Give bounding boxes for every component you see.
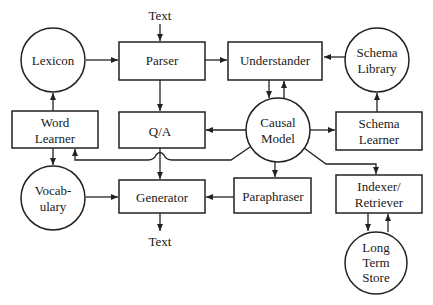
long-term-store-label-line3: Store <box>362 270 390 285</box>
node-causal-model: Causal Model <box>246 98 310 162</box>
long-term-store-label-line1: Long <box>362 240 390 255</box>
lexicon-label: Lexicon <box>32 53 75 68</box>
parser-label: Parser <box>146 53 179 68</box>
node-lexicon: Lexicon <box>21 28 85 92</box>
vocabulary-circle <box>21 166 85 230</box>
node-schema-library: Schema Library <box>345 28 409 92</box>
schema-learner-label-line2: Learner <box>359 132 400 147</box>
causal-model-label-line1: Causal <box>260 115 296 130</box>
node-indexer-retriever: Indexer/ Retriever <box>336 175 422 213</box>
node-schema-learner: Schema Learner <box>336 112 422 150</box>
paraphraser-label: Paraphraser <box>242 189 304 204</box>
vocabulary-label-line1: Vocab- <box>35 183 72 198</box>
long-term-store-label-line2: Term <box>362 255 389 270</box>
causal-model-label-line2: Model <box>261 131 295 146</box>
indexer-retriever-label-line2: Retriever <box>355 195 404 210</box>
schema-library-circle <box>345 28 409 92</box>
output-text-label: Text <box>149 234 172 249</box>
system-architecture-diagram: Text Text Lexicon Parser Understander Sc… <box>0 0 433 305</box>
understander-label: Understander <box>240 53 311 68</box>
node-word-learner: Word Learner <box>12 111 98 148</box>
indexer-retriever-label-line1: Indexer/ <box>357 179 401 194</box>
edge-causal-model-to-indexer <box>304 148 376 174</box>
qa-label: Q/A <box>149 124 172 139</box>
word-learner-label-line2: Learner <box>35 131 76 146</box>
node-parser: Parser <box>119 42 205 80</box>
node-generator: Generator <box>119 180 205 213</box>
node-vocabulary: Vocab- ulary <box>21 166 85 230</box>
edge-causal-model-to-word-learner <box>75 147 250 160</box>
schema-library-label-line1: Schema <box>356 45 397 60</box>
node-long-term-store: Long Term Store <box>345 232 407 294</box>
schema-library-label-line2: Library <box>358 61 397 76</box>
node-paraphraser: Paraphraser <box>234 178 311 213</box>
vocabulary-label-line2: ulary <box>40 199 67 214</box>
node-understander: Understander <box>228 42 322 80</box>
schema-learner-label-line1: Schema <box>358 116 399 131</box>
input-text-label: Text <box>149 8 172 23</box>
word-learner-label-line1: Word <box>41 115 70 130</box>
node-qa: Q/A <box>119 112 205 148</box>
causal-model-circle <box>246 98 310 162</box>
generator-label: Generator <box>136 190 189 205</box>
